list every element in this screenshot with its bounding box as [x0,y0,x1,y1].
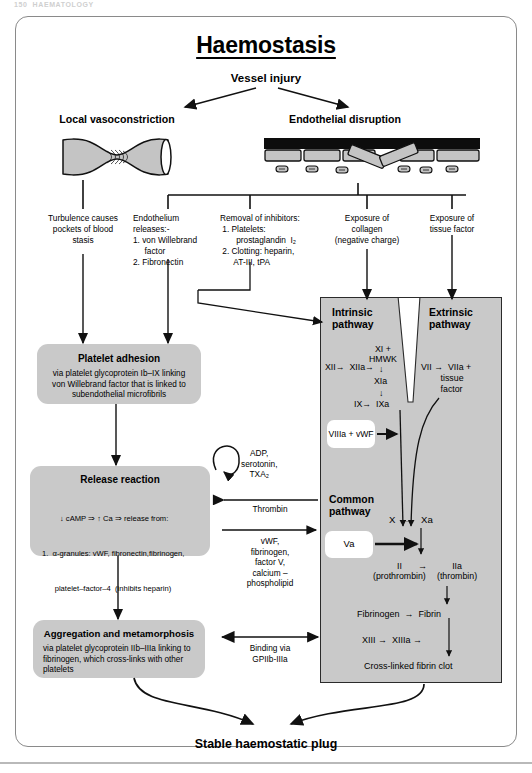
label-coag-factors: vWF, fibrinogen, factor V, calcium – pho… [247,536,294,589]
label-binding-gpiibiiia: Binding via GPIIb-IIIa [250,643,291,664]
cascade-arrows [321,298,503,684]
endothelium-illustration [262,135,482,183]
platelet-adhesion-heading: Platelet adhesion [78,353,160,365]
label-endothelial-disruption: Endothelial disruption [289,113,401,125]
col-endothelium-releases: Endothelium releases:- 1. von Willebrand… [133,213,197,268]
page-title: Haemostasis [196,32,336,59]
box-release-reaction: Release reaction ↓ cAMP ⇒ ↑ Ca ⇒ release… [30,466,210,556]
release-line-2: 1. α-granules: vWF, fibronectin,fibrinog… [42,548,186,560]
release-reaction-heading: Release reaction [80,474,160,486]
label-adp-serotonin-txa2: ADP, serotonin, TXA₂ [241,448,277,480]
col-exposure-tissue-factor: Exposure of tissue factor [430,213,475,235]
release-line-3: platelet–factor–4 (inhibits heparin) [42,583,186,595]
running-head: 150 HAEMATOLOGY [14,1,94,9]
release-line-1: ↓ cAMP ⇒ ↑ Ca ⇒ release from: [42,513,186,525]
box-platelet-adhesion: Platelet adhesion via platelet glycoprot… [37,344,201,404]
label-local-vasoconstriction: Local vasoconstriction [59,113,174,125]
coagulation-cascade-panel: Intrinsic pathway Extrinsic pathway Comm… [320,297,502,683]
col-exposure-collagen: Exposure of collagen (negative charge) [335,213,400,246]
haemostasis-figure: 150 HAEMATOLOGY Haemostasis Vessel injur… [0,0,532,773]
node-stable-haemostatic-plug: Stable haemostatic plug [195,737,338,751]
col-removal-of-inhibitors: Removal of inhibitors: 1. Platelets: pro… [220,213,300,268]
label-thrombin: Thrombin [252,504,287,515]
col-turbulence: Turbulence causes pockets of blood stasi… [48,213,118,246]
aggregation-body: via platelet glycoprotein IIb–IIIa linki… [43,644,190,676]
vessel-illustration [60,136,175,178]
node-vessel-injury: Vessel injury [231,72,301,85]
aggregation-heading: Aggregation and metamorphosis [44,628,194,639]
box-aggregation-metamorphosis: Aggregation and metamorphosis via platel… [33,620,205,678]
page-bottom-rule [0,762,532,764]
platelet-adhesion-body: via platelet glycoprotein Ib–IX linking … [52,369,186,401]
